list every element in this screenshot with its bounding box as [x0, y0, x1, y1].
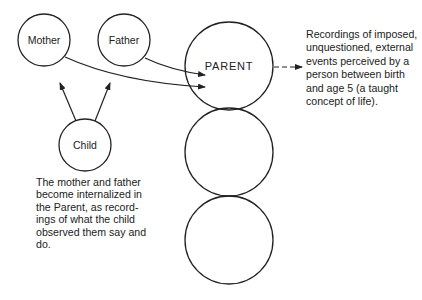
- parent-description: Recordings of imposed, unquestioned, ext…: [306, 28, 417, 108]
- child-node: Child: [59, 119, 111, 171]
- adult-node: [185, 108, 273, 196]
- child-to-father-arrow: [95, 83, 110, 121]
- mother-label: Mother: [28, 34, 61, 46]
- mother-node: Mother: [18, 14, 70, 66]
- father-node: Father: [98, 14, 150, 66]
- child-description: The mother and father become internalize…: [36, 176, 146, 250]
- child-state-node: [185, 196, 273, 284]
- child-to-mother-arrow: [60, 83, 76, 121]
- child-label: Child: [73, 139, 97, 151]
- parent-node: PARENT: [185, 22, 273, 110]
- mother-to-parent-arrow: [65, 57, 205, 87]
- father-to-parent-arrow: [145, 58, 205, 75]
- parent-label: PARENT: [205, 60, 254, 72]
- father-label: Father: [109, 34, 140, 46]
